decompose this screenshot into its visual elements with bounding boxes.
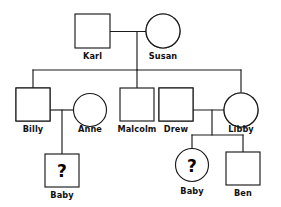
karl-label: Karl [83,51,102,61]
pedigree-chart: Karl Susan Billy Anne Malcolm [0,0,281,207]
billy-square-outline [16,88,50,121]
susan-circle-outline [146,14,180,48]
drew-label: Drew [164,124,189,134]
node-anne[interactable]: Anne [74,94,107,134]
node-baby-left[interactable]: ? Baby [45,154,79,200]
ben-label: Ben [234,188,252,198]
anne-label: Anne [78,124,102,134]
karl-square-male[interactable] [75,14,110,48]
drew-square-outline [159,88,193,121]
baby-right-question-mark-icon: ? [187,156,197,176]
susan-label: Susan [149,51,178,61]
anne-circle-female[interactable] [74,94,107,127]
pedigree-canvas: Karl Susan Billy Anne Malcolm [0,0,281,207]
node-libby[interactable]: Libby [224,93,258,134]
node-malcolm[interactable]: Malcolm [118,88,157,134]
node-susan[interactable]: Susan [146,14,180,61]
node-drew[interactable]: Drew [159,88,193,134]
malcolm-square-male[interactable] [120,88,154,121]
libby-circle-outline [224,93,258,127]
baby-left-label: Baby [50,190,74,200]
baby-right-label: Baby [180,186,204,196]
libby-label: Libby [228,124,254,134]
node-baby-right[interactable]: ? Baby [176,149,209,197]
node-karl[interactable]: Karl [75,14,110,61]
malcolm-label: Malcolm [118,124,157,134]
node-billy[interactable]: Billy [16,88,50,134]
node-ben[interactable]: Ben [226,152,260,198]
ben-square-male[interactable] [226,152,260,185]
baby-left-question-mark-icon: ? [57,161,67,181]
billy-label: Billy [23,124,44,134]
